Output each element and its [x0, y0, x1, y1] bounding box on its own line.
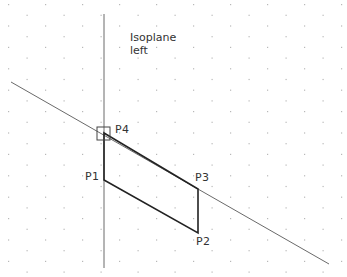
isoplane-label: Isoplane left: [130, 31, 176, 57]
point-label-p3: P3: [195, 172, 209, 184]
isoplane-label-line1: Isoplane: [130, 31, 176, 44]
isoplane-label-line2: left: [130, 44, 176, 57]
point-label-p1: P1: [85, 171, 99, 183]
isometric-parallelogram[interactable]: [104, 133, 198, 233]
point-label-p2: P2: [196, 236, 210, 248]
drawing-canvas[interactable]: Isoplane left P4 P1 P3 P2: [0, 0, 347, 277]
point-label-p4: P4: [115, 124, 129, 136]
